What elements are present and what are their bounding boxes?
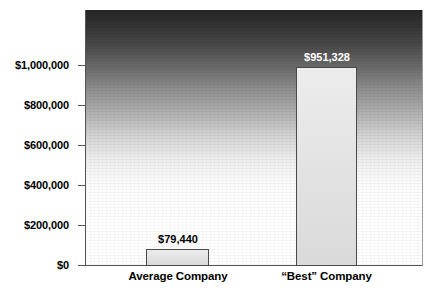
plot-texture-overlay (86, 10, 423, 265)
y-tick-mark-3 (78, 145, 86, 146)
y-tick-mark-2 (78, 185, 86, 186)
plot-right-border (422, 10, 423, 266)
y-tick-mark-1 (78, 225, 86, 226)
bar-average-company (146, 249, 209, 266)
bar-value-label-average-company: $79,440 (137, 233, 219, 245)
x-axis-line (78, 265, 423, 266)
y-axis-line (85, 10, 86, 266)
y-axis-label-2: $400,000 (0, 179, 69, 191)
category-label-best-company: “Best” Company (267, 270, 386, 282)
bar-best-company (296, 67, 357, 266)
bar-value-label-best-company: $951,328 (286, 51, 368, 63)
y-tick-mark-0 (78, 265, 86, 266)
y-axis-label-0: $0 (0, 259, 69, 271)
plot-area (86, 10, 423, 265)
y-tick-mark-4 (78, 105, 86, 106)
bar-chart: $0 $200,000 $400,000 $600,000 $800,000 $… (0, 0, 434, 299)
y-axis-label-4: $800,000 (0, 99, 69, 111)
y-axis-label-3: $600,000 (0, 139, 69, 151)
y-axis-label-1: $200,000 (0, 219, 69, 231)
y-axis-label-5: $1,000,000 (0, 59, 69, 71)
category-label-average-company: Average Company (120, 270, 236, 282)
y-tick-mark-5 (78, 65, 86, 66)
